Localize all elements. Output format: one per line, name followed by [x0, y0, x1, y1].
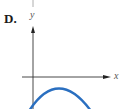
graph-canvas [0, 0, 122, 109]
graph-figure: D. y x [0, 0, 122, 109]
x-axis-arrow-icon [103, 75, 111, 79]
y-axis-arrow-icon [31, 26, 35, 33]
y-axis-label: y [30, 9, 34, 20]
parabola-curve [29, 89, 91, 110]
option-label: D. [4, 11, 17, 27]
x-axis-label: x [114, 70, 118, 81]
